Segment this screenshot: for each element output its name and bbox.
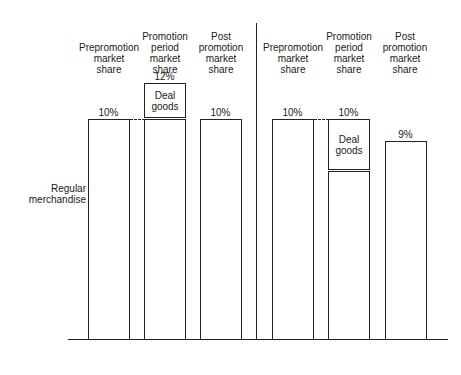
right-promo-bar: [328, 171, 370, 340]
panel-divider: [256, 23, 257, 340]
left-post-value: 10%: [200, 107, 241, 118]
left-dash-line: [130, 119, 145, 120]
right-dash-line: [314, 119, 329, 120]
left-header-post: Post promotion market share: [186, 31, 256, 75]
left-pre-value: 10%: [88, 107, 129, 118]
right-deal-goods-label: Deal goods: [329, 120, 369, 169]
right-post-bar: [385, 141, 427, 340]
right-post-value: 9%: [385, 129, 426, 140]
left-promo-value: 12%: [144, 71, 185, 82]
left-deal-goods-label: Deal goods: [145, 84, 185, 117]
right-deal-goods-box: Deal goods: [328, 119, 370, 170]
right-promo-value: 10%: [328, 107, 369, 118]
left-post-bar: [200, 119, 242, 340]
right-header-post: Post promotion market share: [370, 31, 440, 75]
regular-merchandise-label: Regular merchandise: [14, 183, 86, 205]
left-pre-bar: [88, 119, 130, 340]
right-pre-value: 10%: [272, 107, 313, 118]
right-pre-bar: [272, 119, 314, 340]
left-promo-bar: [144, 119, 186, 340]
left-deal-goods-box: Deal goods: [144, 83, 186, 118]
